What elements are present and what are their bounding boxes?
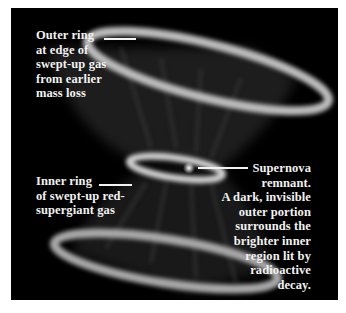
cropped-caption-strip	[11, 306, 191, 313]
figure-panel: Outer ring at edge of swept-up gas from …	[11, 8, 338, 300]
inner-ring-leader-line	[99, 184, 132, 186]
outer-ring-leader-line	[104, 38, 136, 40]
supernova-remnant-core	[183, 162, 195, 174]
supernova-remnant-leader-line	[198, 167, 248, 169]
outer-ring-label: Outer ring at edge of swept-up gas from …	[36, 28, 106, 101]
inner-ring-label: Inner ring of swept-up red- supergiant g…	[36, 174, 125, 218]
supernova-remnant-label: Supernova remnant. A dark, invisible out…	[221, 161, 311, 292]
